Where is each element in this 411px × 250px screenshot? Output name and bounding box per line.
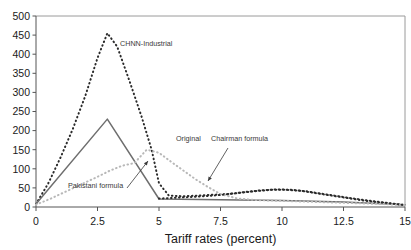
y-axis-tick-label: 50 [18, 182, 30, 194]
x-axis-tick-label: 15 [399, 215, 411, 227]
y-axis-tick-label: 350 [12, 67, 30, 79]
y-axis-tick-label: 100 [12, 163, 30, 175]
annotation-label: Original [176, 134, 201, 143]
y-axis-tick-label: 0 [24, 201, 30, 213]
y-axis-tick-label: 200 [12, 124, 30, 136]
x-axis-tick-label: 12.5 [333, 215, 354, 227]
x-axis-tick-label: 0 [33, 215, 39, 227]
chart-figure: 050100150200250300350400450500 02.557.51… [0, 0, 411, 250]
x-axis-title: Tariff rates (percent) [165, 232, 277, 246]
annotation-label: CHNN-Industrial [120, 39, 173, 48]
x-axis-tick-label: 10 [276, 215, 288, 227]
x-axis-tick-label: 7.5 [213, 215, 228, 227]
x-axis-tick-label: 2.5 [90, 215, 105, 227]
y-axis-tick-label: 450 [12, 29, 30, 41]
chart-background [0, 0, 411, 250]
tariff-distribution-chart: 050100150200250300350400450500 02.557.51… [0, 0, 411, 250]
y-axis-tick-label: 500 [12, 10, 30, 22]
annotation-label: Pakistani formula [68, 181, 123, 190]
annotation-label: Chairman formula [211, 134, 268, 143]
y-axis-tick-label: 250 [12, 105, 30, 117]
x-axis-tick-label: 5 [156, 215, 162, 227]
y-axis-tick-label: 150 [12, 144, 30, 156]
y-axis-tick-label: 300 [12, 86, 30, 98]
y-axis-tick-label: 400 [12, 48, 30, 60]
